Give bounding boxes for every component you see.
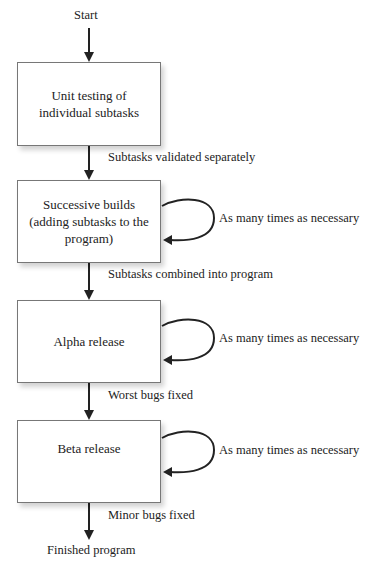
transition-label-1: Subtasks validated separately xyxy=(108,150,255,165)
loop-arrow-box2 xyxy=(162,200,214,245)
end-label: Finished program xyxy=(47,543,136,558)
box-line: Beta release xyxy=(57,440,120,457)
arrow-box1-to-box2 xyxy=(84,146,94,180)
arrow-box3-to-box4 xyxy=(84,383,94,420)
loop-label-box2: As many times as necessary xyxy=(219,211,359,226)
loop-label-box4: As many times as necessary xyxy=(219,443,359,458)
box-unit-testing: Unit testing of individual subtasks xyxy=(17,62,161,146)
loop-arrow-box4 xyxy=(162,432,214,477)
arrow-start-to-box1 xyxy=(84,28,94,62)
loop-label-box3: As many times as necessary xyxy=(219,331,359,346)
transition-label-4: Minor bugs fixed xyxy=(108,508,195,523)
start-label: Start xyxy=(74,8,98,23)
box-beta-release: Beta release xyxy=(17,420,161,503)
arrow-box2-to-box3 xyxy=(84,263,94,300)
box-successive-builds: Successive builds (adding subtasks to th… xyxy=(17,180,161,263)
transition-label-2: Subtasks combined into program xyxy=(108,267,273,282)
box-line: Successive builds xyxy=(29,196,149,213)
box-line: Unit testing of xyxy=(39,87,139,104)
box-alpha-release: Alpha release xyxy=(17,300,161,383)
arrow-box4-to-end xyxy=(84,503,94,540)
box-line: (adding subtasks to the xyxy=(29,213,149,230)
box-line: individual subtasks xyxy=(39,104,139,121)
transition-label-3: Worst bugs fixed xyxy=(108,388,193,403)
loop-arrow-box3 xyxy=(162,320,214,365)
box-line: Alpha release xyxy=(53,333,124,350)
box-line: program) xyxy=(29,230,149,247)
